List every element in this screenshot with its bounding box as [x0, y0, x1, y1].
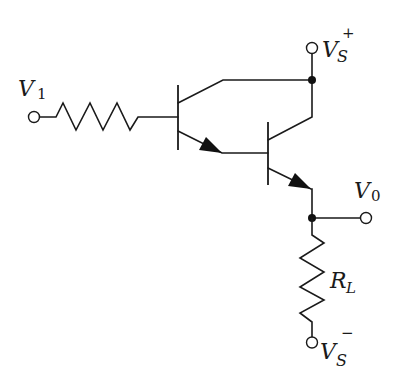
load-label: R	[329, 268, 347, 293]
vs-plus-label-sub: S	[337, 47, 348, 66]
load-resistor	[300, 218, 324, 337]
vs-minus-label-sup: −	[341, 324, 354, 342]
output-label-sub: 0	[371, 187, 381, 205]
input-resistor	[40, 103, 179, 130]
load-branch	[300, 218, 324, 348]
circuit-diagram: V 1 V S + V 0 R L V S −	[0, 0, 394, 387]
q1-emitter	[178, 131, 268, 153]
q2-emitter-arrow-icon	[288, 173, 311, 189]
vs-minus-label-sub: S	[336, 351, 347, 370]
q1-collector	[178, 80, 312, 103]
input-branch	[29, 103, 179, 130]
vs-plus-label-sup: +	[342, 24, 355, 42]
q1-emitter-arrow-icon	[199, 137, 222, 153]
q2-collector	[268, 80, 312, 140]
supply-junction-dot	[308, 76, 316, 84]
input-label: V	[18, 76, 36, 101]
input-label-sub: 1	[37, 85, 47, 103]
output-label: V	[354, 178, 372, 203]
load-label-sub: L	[345, 279, 356, 297]
transistor-q2	[268, 80, 312, 218]
transistor-q1	[178, 80, 312, 153]
positive-supply	[307, 43, 318, 85]
vs-plus-terminal	[307, 43, 318, 54]
q2-emitter	[268, 168, 312, 218]
output-branch	[308, 213, 372, 224]
output-terminal	[361, 213, 372, 224]
input-terminal	[29, 112, 40, 123]
vs-minus-terminal	[307, 337, 318, 348]
